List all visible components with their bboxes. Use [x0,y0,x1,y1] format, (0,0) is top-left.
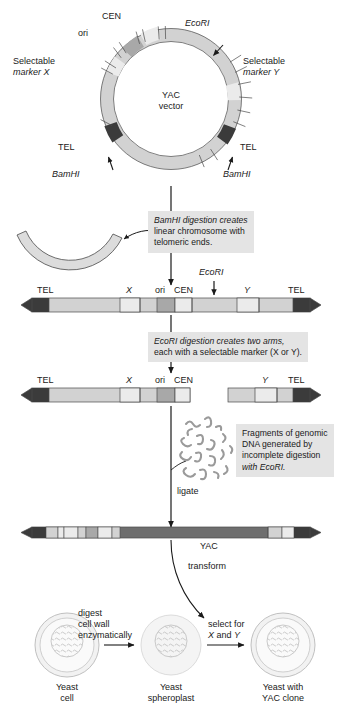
linear-cen-label: CEN [174,285,193,296]
excised-crescent-fragment [17,231,122,270]
vector-cen-label: CEN [102,11,121,22]
yeast-cell-caption: Yeast cell [37,682,97,704]
vector-tel-left-label: TEL [58,142,75,153]
vector-ecori-label: EcoRI [185,18,210,29]
linear-ecori-label: EcoRI [199,267,224,278]
vector-center-label: YAC vector [141,90,201,112]
vector-marker-y-label: Selectable marker Y [243,56,285,78]
vector-bamhi-left-label: BamHI [52,169,80,180]
right-arm-tel-label: TEL [288,375,305,386]
bamhi-digestion-note: BamHI digestion creates linear chromosom… [148,211,254,253]
left-arm-ori-label: ori [155,375,165,386]
genomic-fragments-note: Fragments of genomic DNA generated by in… [236,424,334,477]
select-for-label: select for X and Y [208,619,245,641]
linear-chromosome [21,281,321,312]
linear-marker-y-label: Y [244,285,250,296]
final-yac-chromosome [21,527,321,538]
linear-ori-label: ori [155,285,165,296]
linear-marker-x-label: X [126,285,132,296]
digest-cell-wall-label: digest cell wall enzymatically [78,608,132,641]
vector-tel-right-label: TEL [240,142,257,153]
bamhi-left-pointer-arrow [109,157,114,170]
genomic-dna-fragments [180,417,232,479]
ligate-label: ligate [177,486,199,497]
left-arm-marker-x-label: X [126,375,132,386]
right-arm-marker-y-label: Y [262,375,268,386]
transform-label: transform [188,561,226,572]
left-arm-tel-label: TEL [37,375,54,386]
left-arm-cen-label: CEN [174,375,193,386]
vector-ori-label: ori [78,28,88,39]
left-arm [21,388,190,402]
yac-label: YAC [200,541,218,552]
right-arm [228,388,321,402]
vector-marker-x-label: Selectable marker X [13,56,55,78]
yeast-spheroplast [141,615,201,675]
vector-bamhi-right-label: BamHI [223,169,251,180]
yeast-spheroplast-caption: Yeast spheroplast [131,682,211,704]
linear-tel-right-label: TEL [288,285,305,296]
yeast-with-yac-clone [251,613,315,677]
ecori-digestion-note: EcoRI digestion creates two arms, each w… [148,332,308,362]
linear-tel-left-label: TEL [37,285,54,296]
yeast-yac-clone-caption: Yeast with YAC clone [243,682,323,704]
